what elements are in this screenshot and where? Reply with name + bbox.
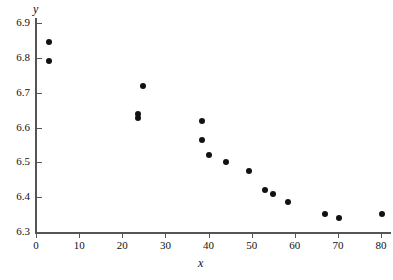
x-tick (252, 233, 253, 238)
x-axis-title: x (198, 256, 203, 271)
data-point (322, 211, 328, 217)
data-point (262, 187, 268, 193)
y-tick (37, 128, 42, 129)
data-point (285, 199, 291, 205)
x-tick (122, 233, 123, 238)
y-tick (37, 162, 42, 163)
data-point (246, 168, 252, 174)
y-tick-label: 6.8 (2, 52, 30, 63)
y-tick (37, 197, 42, 198)
y-axis-line (35, 18, 37, 234)
y-tick (37, 93, 42, 94)
data-point (199, 118, 205, 124)
x-tick (79, 233, 80, 238)
y-tick-label: 6.6 (2, 122, 30, 133)
y-tick (37, 232, 42, 233)
x-tick (165, 233, 166, 238)
x-tick-label: 20 (110, 240, 134, 251)
data-point (135, 115, 141, 121)
x-tick-label: 80 (369, 240, 393, 251)
x-tick-label: 70 (326, 240, 350, 251)
x-tick-label: 30 (153, 240, 177, 251)
x-tick (338, 233, 339, 238)
data-point (336, 215, 342, 221)
y-tick-label: 6.5 (2, 156, 30, 167)
y-tick (37, 58, 42, 59)
data-point (140, 83, 146, 89)
x-tick-label: 40 (197, 240, 221, 251)
x-tick (381, 233, 382, 238)
x-tick (36, 233, 37, 238)
data-point (206, 152, 212, 158)
y-tick-label: 6.9 (2, 17, 30, 28)
scatter-plot-figure: y x 6.36.46.56.66.76.86.9 01020304050607… (0, 0, 393, 280)
data-point (270, 191, 276, 197)
data-point (46, 39, 52, 45)
y-tick-label: 6.4 (2, 191, 30, 202)
x-tick-label: 50 (240, 240, 264, 251)
x-tick-label: 0 (24, 240, 48, 251)
data-point (223, 159, 229, 165)
x-tick-label: 60 (283, 240, 307, 251)
data-point (199, 137, 205, 143)
y-tick-label: 6.7 (2, 87, 30, 98)
x-tick (295, 233, 296, 238)
y-axis-title: y (33, 2, 38, 17)
x-tick (209, 233, 210, 238)
data-point (379, 211, 385, 217)
data-point (46, 58, 52, 64)
y-tick (37, 23, 42, 24)
x-tick-label: 10 (67, 240, 91, 251)
y-tick-label: 6.3 (2, 226, 30, 237)
